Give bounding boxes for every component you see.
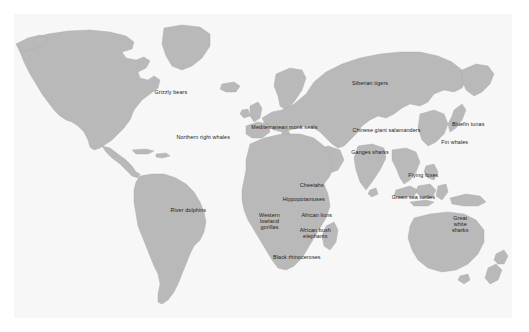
world-map-figure: Grizzly bearsNorthern right whalesRiver … <box>0 0 529 332</box>
species-label-siberian-tigers: Siberian tigers <box>352 80 388 86</box>
species-label-black-rhinoceroses: Black rhinoceroses <box>273 253 321 259</box>
landmass-tasmania <box>458 274 470 284</box>
species-label-river-dolphins: River dolphins <box>170 207 206 213</box>
species-label-african-bush-elephants: African bush elephants <box>300 226 331 239</box>
species-label-african-lions: African lions <box>301 211 332 217</box>
landmass-southeast-asia <box>392 148 420 184</box>
species-label-cheetahs: Cheetahs <box>300 181 324 187</box>
species-label-hippopotamuses: Hippopotamuses <box>283 196 325 202</box>
landmass-south-america <box>134 174 206 304</box>
landmass-new-guinea <box>450 194 486 206</box>
species-label-grizzly-bears: Grizzly bears <box>154 88 187 94</box>
species-label-chinese-giant-salamanders: Chinese giant salamanders <box>352 126 420 132</box>
landmass-british-isles <box>250 102 262 122</box>
map-panel: Grizzly bearsNorthern right whalesRiver … <box>14 14 512 318</box>
landmass-new-zealand-north <box>494 250 508 264</box>
species-label-ganges-sharks: Ganges sharks <box>351 149 389 155</box>
species-label-bluefin-tunas: Bluefin tunas <box>452 121 485 127</box>
landmass-north-america <box>20 30 160 150</box>
world-map-svg <box>14 14 512 318</box>
landmass-new-zealand-south <box>485 264 502 284</box>
landmass-kamchatka <box>462 64 494 96</box>
landmass-sulawesi <box>436 184 448 200</box>
species-label-green-sea-turtles: Green sea turtles <box>392 194 435 200</box>
landmass-sri-lanka <box>368 188 378 197</box>
landmass-australia <box>408 212 484 272</box>
landmass-greenland <box>162 25 210 70</box>
species-label-northern-right-whales: Northern right whales <box>176 134 230 140</box>
species-label-western-lowland-gorillas: Western lowland gorillas <box>259 212 280 231</box>
species-label-fin-whales: Fin whales <box>441 138 468 144</box>
species-label-mediterranean-monk-seals: Mediterranean monk seals <box>251 124 317 130</box>
landmass-japan <box>448 104 466 132</box>
landmass-java <box>410 200 434 206</box>
landmass-hispaniola <box>156 153 170 158</box>
landmass-caribbean <box>132 149 154 154</box>
landmass-ireland <box>240 109 250 118</box>
landmass-iceland <box>220 82 240 92</box>
species-label-great-white-sharks: Great white sharks <box>452 215 469 234</box>
species-label-flying-foxes: Flying foxes <box>408 171 438 177</box>
